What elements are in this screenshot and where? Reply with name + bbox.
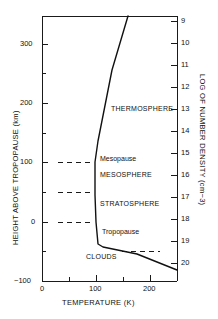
x-axis-title: TEMPERATURE (K) [62,299,135,307]
x-tick-label-0: 0 [40,285,44,293]
annotation-thermosphere: THERMOSPHERE [111,105,173,112]
y2-tick-label-12: 12 [181,83,189,91]
annotation-stratosphere: STRATOSPHERE [100,200,160,207]
y2-axis-title: LOG OF NUMBER DENSITY (cm−3) [199,74,207,205]
y2-tick-label-17: 17 [181,193,189,201]
y2-tick-label-14: 14 [181,127,189,135]
y2-tick-label-10: 10 [181,39,189,47]
y2-tick-label-9: 9 [181,17,185,25]
annotation-tropopause: Tropopause [102,228,139,235]
y2-tick-label-19: 19 [181,237,189,245]
right-axis-ticks [171,21,177,263]
x-tick-label-200: 200 [143,285,156,293]
y2-tick-label-11: 11 [181,61,189,69]
atmospheric-temperature-profile-figure: 300 200 100 0 −100 HEIGHT ABOVE TROPOPAU… [0,0,218,319]
y-tick-label-100: 100 [20,158,33,166]
y2-tick-label-20: 20 [181,259,189,267]
annotation-mesosphere: MESOSPHERE [100,171,152,178]
x-tick-label-100: 100 [89,285,102,293]
y2-tick-label-16: 16 [181,171,189,179]
left-axis-ticks [42,44,48,281]
y-axis-title: HEIGHT ABOVE TROPOPAUSE (km) [12,110,20,245]
y-tick-label-300: 300 [20,40,33,48]
y2-tick-label-18: 18 [181,215,189,223]
plot-frame [42,16,177,281]
y-tick-label-200: 200 [20,99,33,107]
annotation-clouds: CLOUDS [86,253,117,260]
bottom-axis-ticks [42,275,177,281]
y-tick-label-0: 0 [31,218,35,226]
annotation-mesopause: Mesopause [100,155,136,162]
y2-tick-label-13: 13 [181,105,189,113]
y2-tick-label-15: 15 [181,149,189,157]
y-tick-label-minus-100: −100 [14,277,31,285]
